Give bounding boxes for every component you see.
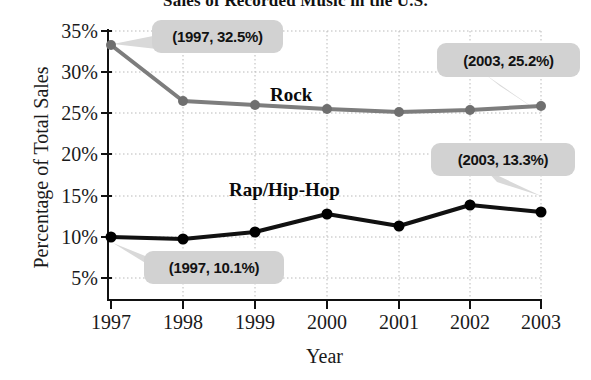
annotation-rock-1997: (1997, 32.5%)	[152, 20, 283, 53]
annotation-rock-2003: (2003, 25.2%)	[437, 43, 580, 77]
annotation-rap-1997: (1997, 10.1%)	[144, 251, 284, 284]
series-label-rap-hip-hop: Rap/Hip-Hop	[229, 179, 340, 201]
series-label-rock: Rock	[270, 84, 312, 106]
annotation-rap-2003: (2003, 13.3%)	[431, 143, 575, 176]
x-tick-marks	[111, 300, 541, 309]
chart-figure: Sales of Recorded Music in the U.S. Perc…	[0, 0, 591, 380]
